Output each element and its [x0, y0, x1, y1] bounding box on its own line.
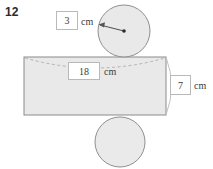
length-value-box[interactable]: 18 [68, 62, 100, 80]
height-unit-label: cm [194, 81, 206, 91]
problem-number: 12 [5, 6, 18, 18]
bottom-circle [95, 117, 145, 167]
length-unit-label: cm [104, 67, 116, 77]
worksheet-figure-panel: 12 3 cm 18 cm 7 cm [0, 0, 213, 169]
height-value-box[interactable]: 7 [170, 75, 191, 95]
center-dot-icon [122, 29, 126, 33]
radius-value-box[interactable]: 3 [56, 11, 78, 30]
radius-unit-label: cm [81, 17, 93, 27]
